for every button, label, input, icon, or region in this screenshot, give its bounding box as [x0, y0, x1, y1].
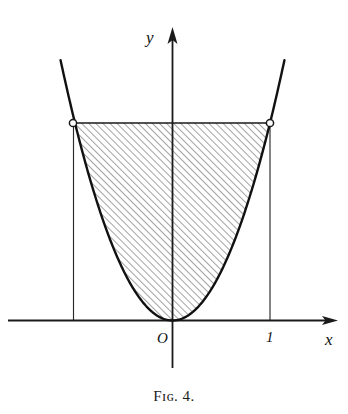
- figure-caption: Fɪɢ. 4.: [0, 388, 348, 405]
- parabola-figure-canvas: y x O 1: [0, 0, 348, 414]
- origin-label: O: [157, 330, 168, 346]
- open-circle-left-endpoint: [69, 119, 76, 126]
- y-axis-label: y: [144, 28, 154, 47]
- x-tick-label-1: 1: [266, 329, 274, 345]
- figure-container: y x O 1 Fɪɢ. 4.: [0, 0, 348, 414]
- x-axis-label: x: [324, 330, 333, 349]
- open-circle-right-endpoint: [266, 119, 273, 126]
